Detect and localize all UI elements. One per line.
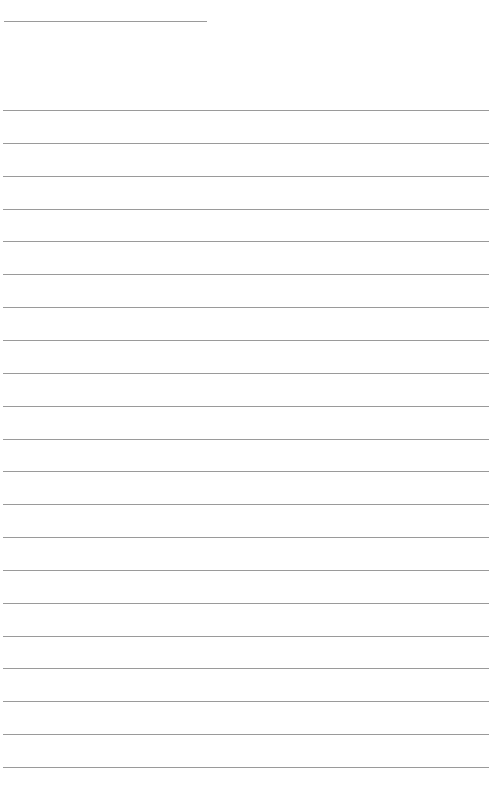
ruled-line — [3, 570, 489, 571]
ruled-line — [3, 340, 489, 341]
ruled-line — [3, 274, 489, 275]
ruled-line — [3, 767, 489, 768]
ruled-line — [3, 176, 489, 177]
ruled-line — [3, 241, 489, 242]
ruled-line — [3, 537, 489, 538]
ruled-line — [3, 143, 489, 144]
header-name-line — [4, 21, 207, 22]
ruled-line — [3, 668, 489, 669]
ruled-line — [3, 504, 489, 505]
ruled-line — [3, 439, 489, 440]
ruled-line — [3, 636, 489, 637]
ruled-line — [3, 701, 489, 702]
ruled-line — [3, 110, 489, 111]
ruled-line — [3, 603, 489, 604]
ruled-line — [3, 209, 489, 210]
ruled-line — [3, 373, 489, 374]
ruled-line — [3, 307, 489, 308]
ruled-line — [3, 734, 489, 735]
ruled-line — [3, 471, 489, 472]
ruled-line — [3, 406, 489, 407]
